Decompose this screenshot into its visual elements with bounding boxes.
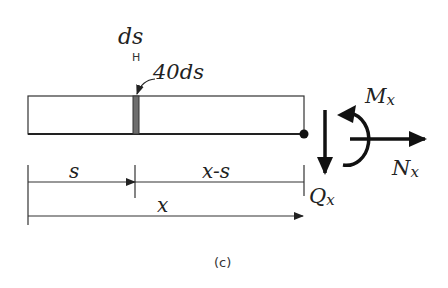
ds-width-marker: H bbox=[132, 51, 140, 64]
moment-arrowhead-icon bbox=[337, 105, 356, 123]
beam-body bbox=[28, 96, 304, 134]
x-minus-s-label: x-s bbox=[202, 159, 230, 183]
beam-diagram: ds H 40ds Qx Mx Nx s x-s x (c) bbox=[0, 0, 448, 288]
element-label: 40ds bbox=[152, 60, 204, 84]
shear-force-label: Qx bbox=[309, 184, 335, 209]
infinitesimal-element bbox=[133, 96, 139, 134]
ds-label: ds bbox=[118, 24, 143, 49]
element-label-text: 40ds bbox=[152, 60, 204, 84]
s-label: s bbox=[69, 159, 79, 183]
beam bbox=[28, 96, 309, 139]
moment-label: Mx bbox=[364, 84, 396, 109]
normal-force-label: Nx bbox=[391, 156, 419, 181]
section-point bbox=[300, 130, 309, 139]
figure-caption: (c) bbox=[214, 255, 231, 270]
x-label: x bbox=[157, 193, 168, 217]
